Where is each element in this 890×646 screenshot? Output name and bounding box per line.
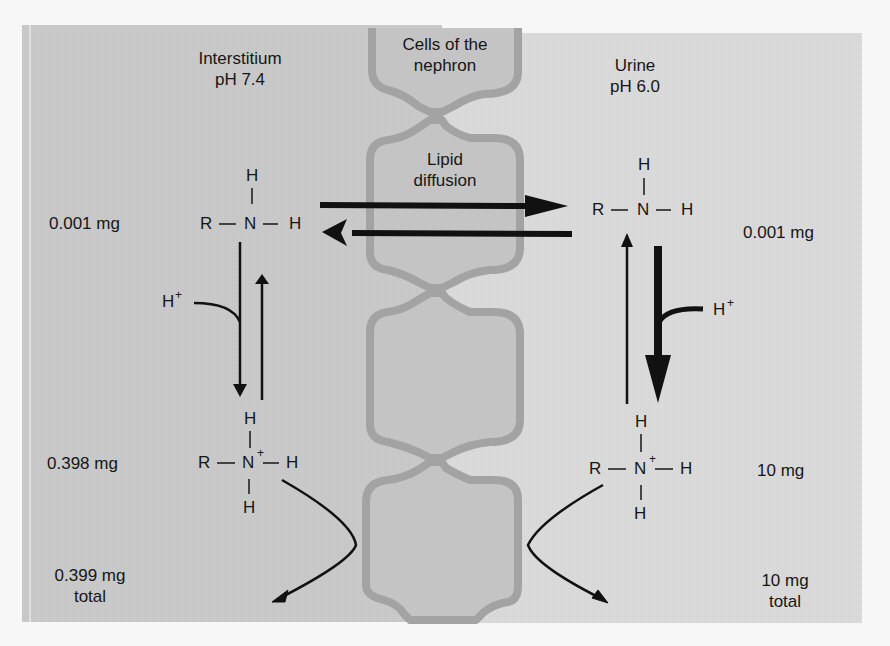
- interstitium-header: Interstitium pH 7.4: [175, 48, 305, 90]
- atom-n: N: [244, 214, 256, 234]
- urine-ionized-amount: 10 mg: [757, 460, 804, 481]
- atom-h-right: H: [289, 214, 301, 234]
- nephron-header: Cells of the nephron: [375, 34, 515, 76]
- urine-total-amount: 10 mg: [745, 570, 825, 591]
- atom-h-right: H: [680, 459, 692, 479]
- nephron-cell-3: [370, 293, 520, 458]
- atom-n: N: [242, 453, 254, 473]
- atom-r: R: [589, 459, 601, 479]
- proton-h: H: [162, 292, 174, 312]
- atom-r: R: [592, 200, 604, 220]
- nephron-label-line2: nephron: [375, 55, 515, 76]
- urine-unionized-amount: 0.001 mg: [743, 222, 814, 243]
- atom-h-right: H: [286, 453, 298, 473]
- n-charge: +: [649, 453, 656, 465]
- n-charge: +: [257, 447, 264, 459]
- interstitium-total-label: total: [40, 586, 140, 607]
- atom-r: R: [198, 453, 210, 473]
- urine-ph: pH 6.0: [595, 76, 675, 97]
- urine-total: 10 mg total: [745, 570, 825, 612]
- atom-h-top: H: [246, 166, 258, 186]
- atom-h-right: H: [681, 200, 693, 220]
- proton-charge: +: [727, 297, 734, 309]
- lipid-diffusion-label: Lipid diffusion: [375, 149, 515, 191]
- interstitium-name: Interstitium: [175, 48, 305, 69]
- interstitium-total-amount: 0.399 mg: [40, 565, 140, 586]
- atom-h-top: H: [638, 155, 650, 175]
- nephron-cell-4: [366, 462, 518, 620]
- atom-n: N: [634, 459, 646, 479]
- proton-charge: +: [175, 289, 182, 301]
- proton-h: H: [713, 300, 725, 320]
- interstitium-total: 0.399 mg total: [40, 565, 140, 607]
- interstitium-unionized-amount: 0.001 mg: [49, 213, 120, 234]
- ion-trapping-diagram: Interstitium pH 7.4 Cells of the nephron…: [0, 0, 890, 646]
- urine-name: Urine: [595, 55, 675, 76]
- nephron-label-line1: Cells of the: [375, 34, 515, 55]
- interstitium-ph: pH 7.4: [175, 69, 305, 90]
- atom-h-bottom: H: [243, 498, 255, 518]
- interstitium-ionized-amount: 0.398 mg: [47, 453, 118, 474]
- lipid-label-line2: diffusion: [375, 170, 515, 191]
- atom-n: N: [637, 200, 649, 220]
- urine-header: Urine pH 6.0: [595, 55, 675, 97]
- atom-r: R: [200, 214, 212, 234]
- atom-h-top: H: [244, 409, 256, 429]
- atom-h-bottom: H: [634, 504, 646, 524]
- lipid-label-line1: Lipid: [375, 149, 515, 170]
- atom-h-top: H: [635, 412, 647, 432]
- urine-total-label: total: [745, 591, 825, 612]
